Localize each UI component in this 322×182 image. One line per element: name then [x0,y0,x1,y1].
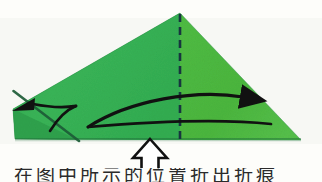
origami-diagram-page: 在图中所示的位置折出折痕 [0,0,322,182]
caption-text: 在图中所示的位置折出折痕 [14,168,278,182]
caption-strip: 在图中所示的位置折出折痕 [0,168,322,182]
origami-figure [0,0,322,182]
